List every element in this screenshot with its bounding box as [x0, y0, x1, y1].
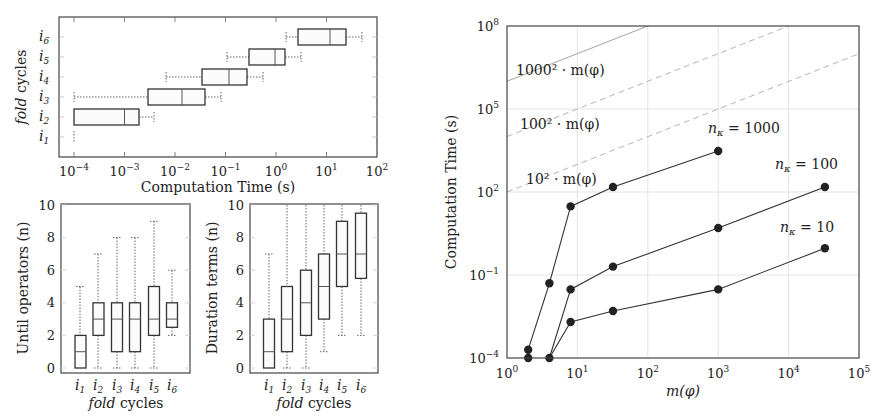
svg-text:10−3: 10−3: [110, 162, 140, 179]
x-axis-label: Computation Time (s): [141, 179, 295, 195]
box-i3: [301, 205, 312, 368]
svg-text:10−4: 10−4: [59, 162, 89, 179]
svg-text:i5: i5: [149, 377, 159, 395]
box-i2: [74, 109, 154, 125]
svg-text:8: 8: [236, 230, 244, 245]
y-axis-label: fold cycles: [13, 49, 29, 125]
series-n100: [549, 187, 825, 358]
svg-text:10−2: 10−2: [160, 162, 190, 179]
svg-text:2: 2: [236, 328, 244, 343]
svg-text:i3: i3: [301, 377, 311, 395]
svg-text:i4: i4: [39, 68, 49, 86]
y-axis-label: Until operators (n): [15, 222, 31, 355]
box-i3: [74, 89, 221, 105]
svg-text:i1: i1: [75, 377, 85, 395]
svg-text:0: 0: [236, 361, 244, 376]
y-tick-labels: 10−4 10−1 102 105 108: [469, 17, 499, 366]
x-axis-label: fold cycles: [87, 395, 163, 411]
svg-text:101: 101: [566, 364, 588, 381]
box-i4: [166, 69, 263, 85]
svg-text:i4: i4: [130, 377, 140, 395]
svg-text:100: 100: [265, 162, 288, 179]
box-i1: [264, 254, 275, 368]
box-i4: [130, 238, 141, 368]
chart-computation-time: 1000² · m(φ) 100² · m(φ) 10² · m(φ) nκ =…: [443, 0, 870, 399]
svg-text:103: 103: [707, 364, 730, 381]
svg-text:i2: i2: [93, 377, 103, 395]
svg-text:101: 101: [315, 162, 337, 179]
annotation-n1000: nκ = 1000: [708, 120, 780, 138]
box-i2: [282, 205, 293, 368]
box-i2: [93, 254, 104, 368]
svg-text:10: 10: [227, 198, 244, 213]
x-axis-label: m(φ): [666, 383, 700, 399]
x-tick-labels: i1 i2 i3 i4 i5 i6: [264, 377, 366, 395]
x-axis-label: fold cycles: [275, 395, 351, 411]
x-tick-labels: i1 i2 i3 i4 i5 i6: [75, 377, 177, 395]
series-n10: [549, 248, 825, 358]
box-i5: [337, 205, 348, 335]
x-tick-labels: 100 101 102 103 104 105: [496, 364, 871, 381]
y-axis-label: Duration terms (n): [204, 222, 220, 355]
box-i3: [112, 238, 123, 368]
chart-fold-cycles-time: 10−4 10−3 10−2 10−1 100 101 102 Computat…: [13, 17, 388, 195]
svg-text:i2: i2: [282, 377, 292, 395]
svg-text:i3: i3: [39, 88, 49, 106]
svg-text:4: 4: [47, 295, 55, 310]
svg-text:8: 8: [47, 230, 55, 245]
svg-text:i5: i5: [39, 48, 49, 66]
ref-label-100sq: 100² · m(φ): [520, 116, 600, 132]
box-i1: [75, 287, 86, 369]
svg-text:6: 6: [236, 263, 244, 278]
figure: 10−4 10−3 10−2 10−1 100 101 102 Computat…: [0, 0, 879, 420]
svg-text:104: 104: [777, 364, 800, 381]
chart-duration-terms: 0 2 4 6 8 10 i1 i2 i3 i4 i5 i6 fold cycl…: [204, 198, 378, 411]
svg-text:10: 10: [38, 198, 55, 213]
box-i5: [227, 49, 301, 65]
svg-text:i6: i6: [39, 28, 49, 46]
svg-text:4: 4: [236, 295, 244, 310]
svg-text:i1: i1: [39, 128, 49, 146]
box-i6: [167, 270, 178, 335]
y-tick-labels: i6 i5 i4 i3 i2 i1: [39, 28, 49, 146]
svg-text:100: 100: [496, 364, 519, 381]
svg-text:i2: i2: [39, 108, 49, 126]
svg-text:10−4: 10−4: [469, 349, 499, 366]
box-i4: [319, 205, 330, 352]
ref-label-10sq: 10² · m(φ): [526, 171, 597, 187]
box-i5: [149, 221, 160, 368]
svg-text:105: 105: [848, 364, 871, 381]
svg-text:i6: i6: [167, 377, 177, 395]
svg-text:i3: i3: [112, 377, 122, 395]
y-tick-labels: 0 2 4 6 8 10: [38, 198, 55, 376]
svg-text:102: 102: [637, 364, 659, 381]
svg-text:105: 105: [477, 100, 500, 117]
svg-text:0: 0: [47, 361, 55, 376]
svg-text:10−1: 10−1: [211, 162, 241, 179]
svg-text:2: 2: [47, 328, 55, 343]
y-axis-label: Computation Time (s): [443, 115, 459, 269]
ref-label-1000sq: 1000² · m(φ): [516, 62, 605, 78]
x-tick-labels: 10−4 10−3 10−2 10−1 100 101 102: [59, 162, 388, 179]
annotation-n100: nκ = 100: [775, 156, 838, 174]
svg-text:102: 102: [477, 183, 499, 200]
svg-text:i1: i1: [264, 377, 274, 395]
x-tick-marks: [74, 17, 327, 157]
svg-text:i6: i6: [356, 377, 366, 395]
chart-until-operators: 0 2 4 6 8 10 i1 i2 i3 i4 i5 i6 fold cycl…: [15, 198, 190, 411]
svg-text:108: 108: [477, 17, 500, 34]
svg-text:10−1: 10−1: [469, 266, 499, 283]
svg-text:102: 102: [366, 162, 388, 179]
svg-text:6: 6: [47, 263, 55, 278]
y-tick-labels: 0 2 4 6 8 10: [227, 198, 244, 376]
box-i6: [286, 29, 362, 45]
svg-text:i4: i4: [319, 377, 329, 395]
svg-text:i5: i5: [337, 377, 347, 395]
annotation-n10: nκ = 10: [780, 219, 834, 237]
box-i6: [356, 205, 367, 335]
